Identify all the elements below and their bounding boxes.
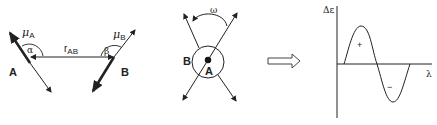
rab-label: rAB bbox=[64, 43, 78, 56]
dipole-b-axis-up bbox=[184, 14, 199, 48]
dipole-b-axis-down bbox=[218, 75, 236, 101]
exciton-coupling-diagram: μA α rAB β μB A B ω B A Δε λ + − bbox=[0, 0, 437, 125]
dipole-a-tail bbox=[30, 63, 51, 92]
dipole-a-axis-up bbox=[208, 13, 237, 60]
y-axis-label: Δε bbox=[323, 5, 334, 15]
dipole-geometry-panel: μA α rAB β μB A B bbox=[9, 26, 135, 92]
positive-band-label: + bbox=[357, 40, 362, 50]
alpha-label: α bbox=[27, 45, 33, 55]
x-axis-label: λ bbox=[426, 69, 432, 79]
cd-spectrum-panel: Δε λ + − bbox=[323, 5, 432, 118]
mu-b-label: μB bbox=[113, 28, 126, 42]
omega-arc bbox=[193, 14, 227, 26]
negative-band-label: − bbox=[387, 82, 392, 92]
beta-label: β bbox=[104, 46, 109, 56]
mu-a-label: μA bbox=[22, 26, 35, 40]
hollow-right-arrow-icon bbox=[268, 54, 300, 68]
stacked-b-label: B bbox=[183, 55, 191, 67]
chromophore-b-label: B bbox=[121, 66, 129, 78]
dipole-b-moment-arrow bbox=[93, 57, 114, 91]
stacked-view-panel: ω B A bbox=[183, 5, 237, 101]
chromophore-a-label: A bbox=[9, 66, 17, 78]
omega-label: ω bbox=[210, 5, 217, 15]
stacked-a-label: A bbox=[205, 65, 213, 77]
